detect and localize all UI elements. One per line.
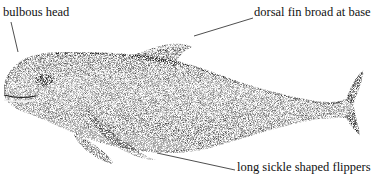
label-bulbous-head: bulbous head — [3, 6, 69, 19]
label-dorsal-fin: dorsal fin broad at base — [254, 6, 371, 19]
label-flippers: long sickle shaped flippers — [237, 161, 371, 174]
whale-body — [4, 53, 364, 153]
leader-line-head — [11, 22, 18, 52]
tail-fluke — [346, 70, 364, 104]
leader-line-dorsal — [194, 18, 253, 36]
leader-line-flipper — [157, 153, 235, 170]
